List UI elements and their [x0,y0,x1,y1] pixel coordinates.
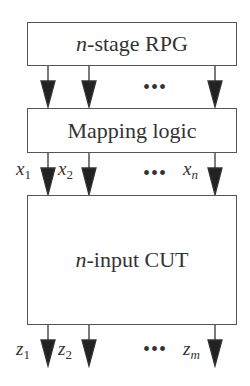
rpg-n: n [76,31,87,57]
rpg-ellipsis: ••• [143,76,167,99]
output-ellipsis: ••• [143,338,167,361]
rpg-label: -stage RPG [87,31,188,57]
mapping-logic-block: Mapping logic [27,108,237,153]
output-label-zm: zm [183,338,200,363]
input-ellipsis: ••• [143,162,167,185]
cut-n: n [75,247,86,273]
mapping-label: Mapping logic [68,118,197,144]
input-label-x1: x1 [16,158,31,183]
cut-label: -input CUT [86,247,188,273]
cut-block: n-input CUT [27,195,237,325]
input-label-x2: x2 [58,158,73,183]
rpg-block: n-stage RPG [27,22,237,66]
output-label-z2: z2 [58,338,72,363]
input-label-xn: xn [183,158,198,183]
output-label-z1: z1 [16,338,30,363]
